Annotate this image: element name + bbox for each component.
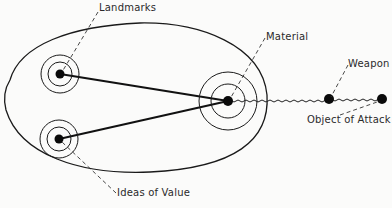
leader-object-of-attack <box>340 101 380 115</box>
diagram-canvas: Landmarks Material Weapon Object of Atta… <box>0 0 392 208</box>
label-object-of-attack: Object of Attack <box>307 114 391 126</box>
edge-wavy-material-object <box>228 99 382 102</box>
label-material: Material <box>266 31 308 43</box>
leader-landmarks <box>62 12 98 72</box>
leader-weapon <box>331 65 348 97</box>
edge-ideas-material <box>59 101 228 139</box>
label-weapon: Weapon <box>348 58 390 70</box>
leader-ideas-of-value <box>62 142 116 193</box>
node-weapon <box>324 94 334 104</box>
label-ideas-of-value: Ideas of Value <box>117 187 190 199</box>
node-landmarks <box>41 55 79 93</box>
leader-material <box>230 38 265 99</box>
node-object-of-attack <box>377 94 387 104</box>
label-landmarks: Landmarks <box>99 2 156 14</box>
diagram-graphics <box>0 0 392 208</box>
